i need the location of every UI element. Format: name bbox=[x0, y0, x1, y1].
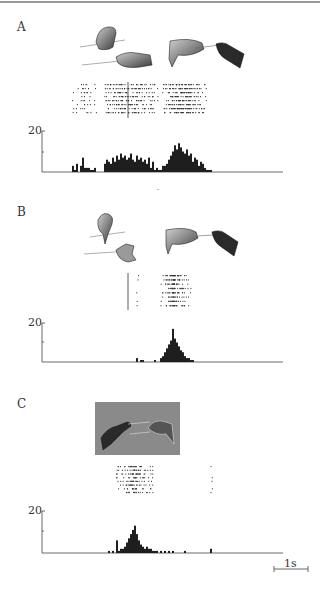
histogram-bar bbox=[116, 156, 118, 172]
histogram-bar bbox=[104, 164, 106, 172]
histogram-bar bbox=[128, 158, 130, 172]
histogram-bar bbox=[118, 160, 120, 172]
histogram-bar bbox=[202, 164, 204, 172]
histogram-bar bbox=[72, 166, 74, 172]
histogram-bar bbox=[210, 549, 212, 553]
panel-b-illustration-right bbox=[166, 228, 238, 256]
panel-c-illustration bbox=[95, 402, 180, 455]
histogram-bar bbox=[130, 154, 132, 172]
histogram-bar bbox=[190, 154, 192, 172]
histogram-bar bbox=[172, 152, 174, 173]
panel-a-histogram bbox=[72, 143, 212, 172]
histogram-bar bbox=[132, 530, 134, 553]
histogram-bar bbox=[130, 534, 132, 553]
histogram-bar bbox=[80, 166, 82, 172]
histogram-bar bbox=[146, 164, 148, 172]
histogram-bar bbox=[156, 168, 158, 172]
histogram-bar bbox=[114, 162, 116, 172]
histogram-bar bbox=[166, 164, 168, 172]
histogram-bar bbox=[178, 143, 180, 172]
histogram-bar bbox=[186, 358, 188, 362]
figure-graphics bbox=[0, 0, 320, 593]
histogram-bar bbox=[140, 158, 142, 172]
histogram-bar bbox=[144, 160, 146, 172]
histogram-bar bbox=[168, 551, 170, 553]
histogram-bar bbox=[184, 551, 186, 553]
histogram-bar bbox=[152, 162, 154, 172]
histogram-bar bbox=[138, 540, 140, 553]
histogram-bar bbox=[112, 158, 114, 172]
histogram-bar bbox=[122, 158, 124, 172]
histogram-bar bbox=[136, 534, 138, 553]
histogram-bar bbox=[140, 360, 142, 362]
histogram-bar bbox=[198, 166, 200, 172]
panel-c-histogram bbox=[108, 526, 212, 553]
histogram-bar bbox=[168, 344, 170, 362]
histogram-bar bbox=[128, 538, 130, 553]
histogram-bar bbox=[136, 156, 138, 172]
histogram-bar bbox=[184, 356, 186, 362]
histogram-bar bbox=[152, 551, 154, 553]
histogram-bar bbox=[170, 341, 172, 362]
panel-a-raster bbox=[72, 82, 207, 118]
histogram-bar bbox=[194, 158, 196, 172]
panel-b-illustration-left bbox=[84, 214, 136, 262]
scale-bar bbox=[274, 566, 308, 572]
histogram-bar bbox=[182, 152, 184, 173]
histogram-bar bbox=[204, 168, 206, 172]
histogram-bar bbox=[134, 162, 136, 172]
histogram-bar bbox=[176, 343, 178, 363]
histogram-bar bbox=[156, 551, 158, 553]
histogram-bar bbox=[174, 145, 176, 172]
histogram-bar bbox=[138, 160, 140, 172]
histogram-bar bbox=[180, 147, 182, 172]
histogram-bar bbox=[122, 549, 124, 553]
histogram-bar bbox=[154, 170, 156, 172]
panel-a-illustration-right bbox=[169, 39, 244, 68]
histogram-bar bbox=[124, 156, 126, 172]
histogram-bar bbox=[196, 160, 198, 172]
histogram-bar bbox=[120, 154, 122, 172]
histogram-bar bbox=[110, 164, 112, 172]
histogram-bar bbox=[142, 360, 144, 362]
histogram-bar bbox=[168, 160, 170, 172]
histogram-bar bbox=[162, 356, 164, 362]
histogram-bar bbox=[164, 551, 166, 553]
histogram-bar bbox=[158, 170, 160, 172]
histogram-bar bbox=[160, 358, 162, 362]
histogram-bar bbox=[174, 339, 176, 362]
histogram-bar bbox=[90, 170, 92, 172]
histogram-bar bbox=[108, 162, 110, 172]
histogram-bar bbox=[88, 168, 90, 172]
histogram-bar bbox=[162, 166, 164, 172]
histogram-bar bbox=[116, 540, 118, 553]
histogram-bar bbox=[120, 549, 122, 553]
histogram-bar bbox=[140, 545, 142, 553]
histogram-bar bbox=[148, 549, 150, 553]
histogram-bar bbox=[170, 156, 172, 172]
histogram-bar bbox=[192, 360, 194, 362]
histogram-bar bbox=[164, 166, 166, 172]
histogram-bar bbox=[186, 149, 188, 172]
histogram-bar bbox=[164, 352, 166, 362]
histogram-bar bbox=[184, 154, 186, 172]
histogram-bar bbox=[178, 346, 180, 362]
histogram-bar bbox=[154, 551, 156, 553]
histogram-bar bbox=[160, 170, 162, 172]
histogram-bar bbox=[86, 168, 88, 172]
histogram-bar bbox=[150, 549, 152, 553]
histogram-bar bbox=[84, 168, 86, 172]
histogram-bar bbox=[166, 348, 168, 362]
histogram-bar bbox=[172, 551, 174, 553]
histogram-bar bbox=[144, 549, 146, 553]
histogram-bar bbox=[142, 162, 144, 172]
histogram-bar bbox=[182, 352, 184, 362]
histogram-bar bbox=[210, 170, 212, 172]
histogram-bar bbox=[180, 350, 182, 362]
histogram-bar bbox=[82, 158, 84, 172]
panel-b-histogram bbox=[136, 329, 194, 362]
panel-c-raster bbox=[116, 466, 213, 493]
histogram-bar bbox=[106, 160, 108, 172]
histogram-bar bbox=[148, 158, 150, 172]
histogram-bar bbox=[188, 358, 190, 362]
